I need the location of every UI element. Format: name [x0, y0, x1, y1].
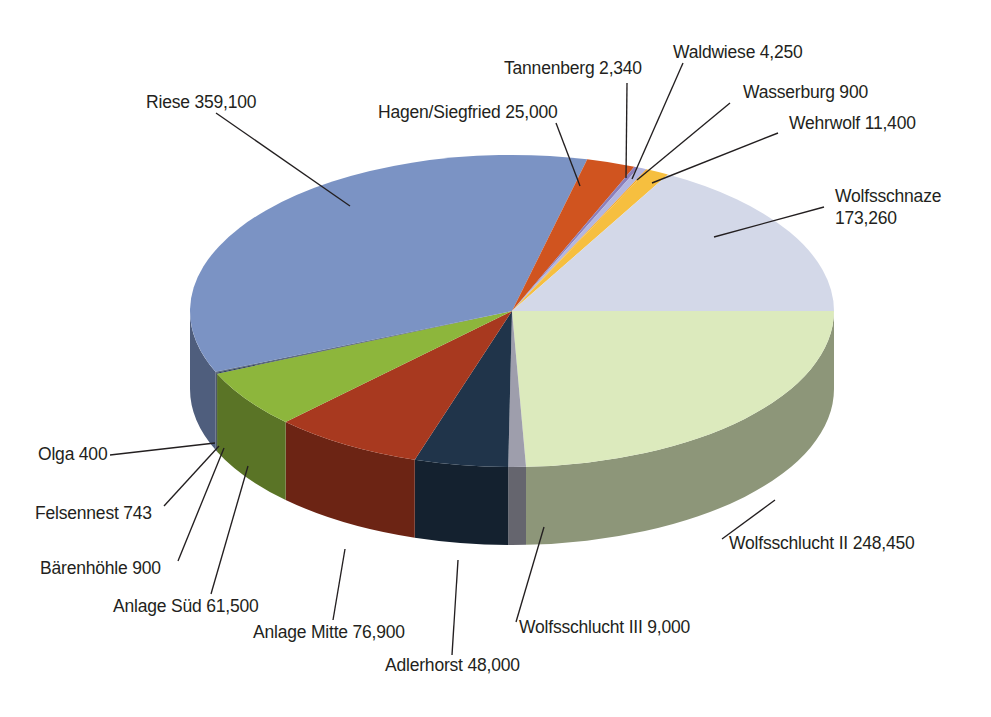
label-riese: Riese 359,100: [146, 92, 256, 113]
pie-slice-side: [415, 460, 508, 545]
label-wehrwolf: Wehrwolf 11,400: [789, 113, 916, 134]
label-adlerhorst: Adlerhorst 48,000: [385, 655, 520, 676]
pie-body: [190, 155, 834, 545]
pie-slice-side: [508, 467, 526, 545]
label-anlage-sued: Anlage Süd 61,500: [113, 596, 258, 617]
leader-waldwiese: [632, 63, 683, 179]
label-wolfsschnaze-line2: 173,260: [835, 208, 897, 229]
leader-anlage-sued: [211, 466, 248, 594]
leader-wehrwolf: [652, 133, 778, 183]
label-hagen-siegfried: Hagen/Siegfried 25,000: [378, 102, 558, 123]
label-waldwiese: Waldwiese 4,250: [673, 42, 803, 63]
label-wolfsschnaze-line1: Wolfsschnaze: [835, 186, 941, 207]
label-wasserburg: Wasserburg 900: [743, 82, 868, 103]
label-wolfsschlucht-3: Wolfsschlucht III 9,000: [519, 617, 690, 638]
leader-adlerhorst: [452, 560, 458, 655]
pie-slice-side: [216, 373, 217, 452]
label-olga: Olga 400: [38, 444, 107, 465]
leader-anlage-mitte: [333, 549, 345, 620]
leader-tannenberg: [626, 83, 627, 178]
leader-felsennest: [164, 446, 219, 506]
label-baerenhoehle: Bärenhöhle 900: [40, 558, 161, 579]
label-wolfsschlucht-2: Wolfsschlucht II 248,450: [729, 533, 915, 554]
pie-slice-side: [216, 372, 217, 451]
leader-riese: [216, 113, 350, 206]
pie-chart: Riese 359,100 Hagen/Siegfried 25,000 Tan…: [0, 0, 991, 717]
leader-olga: [110, 443, 215, 455]
label-felsennest: Felsennest 743: [35, 503, 152, 524]
label-tannenberg: Tannenberg 2,340: [504, 58, 642, 79]
label-anlage-mitte: Anlage Mitte 76,900: [253, 622, 405, 643]
leader-wasserburg: [637, 103, 730, 180]
